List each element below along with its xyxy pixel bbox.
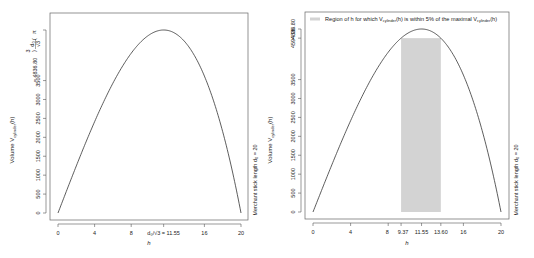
left-curve — [58, 30, 241, 213]
svg-text:3: 3 — [25, 49, 31, 52]
x-tick-label: 20 — [498, 229, 504, 235]
svg-text:√3: √3 — [35, 41, 41, 47]
y-tick-label: 2000 — [35, 131, 41, 143]
right-right-label: Merchant stick length d0 = 20 — [513, 144, 520, 215]
y-tick-label: 1500 — [35, 150, 41, 162]
y-tick-label: 1500 — [290, 149, 296, 161]
left-y-axis-title: Volume Vcylinder(h) — [9, 117, 17, 164]
x-tick-label: d₀/√3 = 11.55 — [147, 230, 180, 236]
right-y-axis-title: Volume Vcylinder(h) — [267, 117, 275, 164]
x-tick-label: 0 — [311, 229, 314, 235]
left-y-axis: 0500100015002000250030003500 — [35, 30, 46, 215]
y-tick-label: 1000 — [35, 169, 41, 181]
x-tick-label: 8 — [130, 230, 133, 236]
right-y-axis: 05001000150020002500300035004594.964836.… — [290, 19, 301, 213]
right-x-axis: 0489.3711.5513.601620 — [311, 223, 504, 235]
legend: Region of h for which Vcylinder(h) is wi… — [310, 16, 497, 23]
y-tick-label: 1000 — [290, 168, 296, 180]
left-x-axis-title: h — [147, 240, 151, 246]
left-x-axis: 048d₀/√3 = 11.551620 — [56, 224, 244, 236]
x-tick-label: 4 — [93, 230, 96, 236]
x-tick-label: 11.55 — [415, 229, 428, 235]
y-tick-label: 500 — [35, 189, 41, 198]
legend-swatch — [310, 18, 320, 21]
left-plot: 0500100015002000250030003500 048d₀/√3 = … — [9, 13, 259, 246]
x-tick-label: 9.37 — [398, 229, 409, 235]
y-tick-label: 0 — [290, 210, 296, 213]
x-tick-label: 13.60 — [434, 229, 448, 235]
svg-text:= 4836.80: = 4836.80 — [32, 58, 38, 83]
x-tick-label: 20 — [238, 230, 244, 236]
x-tick-label: 4 — [349, 229, 352, 235]
svg-text:π: π — [31, 30, 37, 34]
right-x-axis-title: h — [405, 240, 409, 246]
y-tick-label: 4836.80 — [290, 19, 296, 39]
x-tick-label: 8 — [386, 229, 389, 235]
y-tick-label: 0 — [35, 211, 41, 214]
x-tick-label: 16 — [460, 229, 466, 235]
left-y-max-label: π ( d₀ √3 ) 3 = 4836.80 — [25, 30, 41, 82]
x-tick-label: 16 — [201, 230, 207, 236]
x-tick-label: 0 — [56, 230, 59, 236]
left-right-label: Merchant stick length d0 = 20 — [252, 144, 259, 215]
chart-canvas: 0500100015002000250030003500 048d₀/√3 = … — [0, 0, 534, 258]
shaded-region — [401, 38, 441, 212]
legend-text: Region of h for which Vcylinder(h) is wi… — [325, 16, 497, 23]
y-tick-label: 500 — [290, 188, 296, 197]
right-plot: Region of h for which Vcylinder(h) is wi… — [267, 12, 520, 246]
y-tick-label: 2500 — [290, 111, 296, 123]
y-tick-label: 3500 — [290, 73, 296, 85]
y-tick-label: 2000 — [290, 130, 296, 142]
y-tick-label: 3000 — [290, 92, 296, 104]
svg-text:(: ( — [31, 38, 37, 40]
y-tick-label: 2500 — [35, 112, 41, 124]
svg-text:): ) — [31, 50, 37, 52]
y-tick-label: 3000 — [35, 93, 41, 105]
